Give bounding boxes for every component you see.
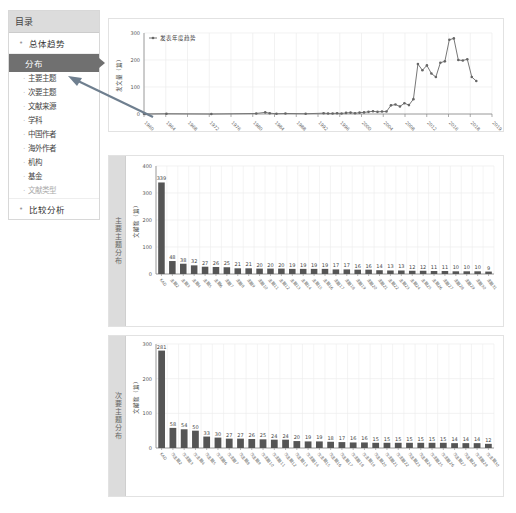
svg-text:19: 19 bbox=[300, 262, 306, 268]
bullet-icon: · bbox=[23, 102, 25, 111]
svg-text:20: 20 bbox=[278, 262, 284, 268]
sidebar-subitem[interactable]: ·次要主题 bbox=[9, 86, 99, 100]
sidebar-item-overall-trend[interactable]: • 总体趋势 bbox=[9, 33, 99, 54]
svg-text:0: 0 bbox=[137, 111, 140, 117]
svg-text:16: 16 bbox=[355, 263, 361, 269]
svg-text:10: 10 bbox=[474, 264, 480, 270]
sidebar-subitem[interactable]: ·机构 bbox=[9, 156, 99, 170]
svg-text:20: 20 bbox=[267, 262, 273, 268]
svg-text:2000: 2000 bbox=[361, 120, 373, 131]
svg-text:33: 33 bbox=[204, 430, 210, 436]
svg-text:主题31: 主题31 bbox=[486, 277, 499, 291]
bullet-icon: · bbox=[23, 88, 25, 97]
svg-text:100: 100 bbox=[142, 244, 152, 250]
svg-text:58: 58 bbox=[170, 421, 176, 427]
svg-text:13: 13 bbox=[398, 263, 404, 269]
svg-text:文献数（篇）: 文献数（篇） bbox=[132, 378, 140, 414]
sidebar-subitem-label: 中国作者 bbox=[28, 130, 56, 139]
primary-topic-panel: 主要主题分布 0100200300400339KAD48主题238主题332主题… bbox=[108, 155, 504, 327]
svg-text:11: 11 bbox=[442, 264, 448, 270]
annual-trend-line-chart: 0100200300196019641968197219761980198419… bbox=[109, 19, 503, 131]
sidebar-subitem[interactable]: ·主要主题 bbox=[9, 72, 99, 86]
svg-text:主题11: 主题11 bbox=[268, 277, 281, 291]
svg-text:15: 15 bbox=[429, 436, 435, 442]
svg-text:主题27: 主题27 bbox=[442, 277, 455, 291]
svg-text:14: 14 bbox=[463, 436, 469, 442]
svg-text:主题25: 主题25 bbox=[420, 277, 433, 291]
svg-text:400: 400 bbox=[142, 163, 152, 169]
svg-text:15: 15 bbox=[373, 436, 379, 442]
sidebar-subitem[interactable]: ·学科 bbox=[9, 114, 99, 128]
svg-text:38: 38 bbox=[180, 257, 186, 263]
svg-text:25: 25 bbox=[260, 432, 266, 438]
sidebar-subitem[interactable]: ·中国作者 bbox=[9, 128, 99, 142]
svg-text:200: 200 bbox=[142, 217, 152, 223]
svg-text:主题21: 主题21 bbox=[377, 277, 390, 291]
svg-text:KAD: KAD bbox=[159, 451, 168, 461]
svg-text:主题16: 主题16 bbox=[322, 277, 335, 291]
svg-text:2018: 2018 bbox=[470, 120, 482, 131]
sidebar-subitem[interactable]: ·海外作者 bbox=[9, 142, 99, 156]
svg-text:主题8: 主题8 bbox=[235, 277, 247, 289]
svg-text:19: 19 bbox=[311, 262, 317, 268]
svg-text:20: 20 bbox=[294, 434, 300, 440]
svg-text:0: 0 bbox=[149, 445, 152, 451]
svg-text:17: 17 bbox=[333, 262, 339, 268]
svg-text:17: 17 bbox=[344, 262, 350, 268]
svg-text:2008: 2008 bbox=[404, 120, 416, 131]
svg-text:300: 300 bbox=[142, 341, 152, 347]
svg-text:200: 200 bbox=[130, 57, 140, 63]
svg-text:主题12: 主题12 bbox=[279, 277, 292, 291]
svg-text:1964: 1964 bbox=[165, 120, 177, 131]
sidebar-subitem-label: 海外作者 bbox=[28, 144, 56, 153]
svg-text:主题5: 主题5 bbox=[202, 277, 214, 289]
sidebar-subitem[interactable]: ·文献类型 bbox=[9, 184, 99, 198]
svg-text:主题15: 主题15 bbox=[311, 277, 324, 291]
svg-text:15: 15 bbox=[418, 436, 424, 442]
secondary-topic-bar-chart: 0100200300281KAD58次主题254次主题350次主题433次主题5… bbox=[109, 336, 503, 496]
bullet-icon: · bbox=[23, 116, 25, 125]
svg-text:19: 19 bbox=[289, 262, 295, 268]
svg-text:281: 281 bbox=[157, 344, 167, 350]
svg-text:主题3: 主题3 bbox=[180, 277, 192, 289]
sidebar-item-comparison[interactable]: • 比较分析 bbox=[9, 198, 99, 219]
svg-text:50: 50 bbox=[192, 424, 198, 430]
svg-text:KAD: KAD bbox=[159, 277, 168, 287]
svg-text:19: 19 bbox=[316, 434, 322, 440]
svg-text:1968: 1968 bbox=[187, 120, 199, 131]
svg-text:主题29: 主题29 bbox=[464, 277, 477, 291]
svg-text:主题10: 主题10 bbox=[257, 277, 270, 291]
svg-text:1980: 1980 bbox=[252, 120, 264, 131]
svg-text:17: 17 bbox=[339, 435, 345, 441]
sidebar-item-label: 总体趋势 bbox=[29, 37, 65, 49]
sidebar-item-distribution[interactable]: 分布 bbox=[9, 54, 99, 72]
svg-text:300: 300 bbox=[142, 190, 152, 196]
svg-text:文献数（篇）: 文献数（篇） bbox=[132, 202, 140, 238]
svg-text:100: 100 bbox=[130, 84, 140, 90]
svg-text:1960: 1960 bbox=[143, 120, 155, 131]
bullet-icon: · bbox=[23, 186, 25, 195]
svg-text:10: 10 bbox=[464, 264, 470, 270]
svg-text:1976: 1976 bbox=[230, 120, 242, 131]
svg-text:26: 26 bbox=[213, 260, 219, 266]
svg-text:27: 27 bbox=[202, 260, 208, 266]
svg-text:2016: 2016 bbox=[448, 120, 460, 131]
svg-text:48: 48 bbox=[169, 254, 175, 260]
svg-text:2004: 2004 bbox=[383, 120, 395, 131]
svg-text:14: 14 bbox=[451, 436, 457, 442]
sidebar-subitem[interactable]: ·基金 bbox=[9, 170, 99, 184]
svg-text:15: 15 bbox=[384, 436, 390, 442]
svg-text:16: 16 bbox=[350, 435, 356, 441]
svg-text:15: 15 bbox=[406, 436, 412, 442]
svg-text:主题9: 主题9 bbox=[246, 277, 258, 289]
svg-text:14: 14 bbox=[474, 436, 480, 442]
svg-text:主题17: 主题17 bbox=[333, 277, 346, 291]
svg-text:16: 16 bbox=[365, 263, 371, 269]
svg-text:发文量（篇）: 发文量（篇） bbox=[115, 56, 123, 92]
svg-text:主题28: 主题28 bbox=[453, 277, 466, 291]
svg-text:主题2: 主题2 bbox=[170, 277, 182, 289]
svg-text:1996: 1996 bbox=[339, 120, 351, 131]
bullet-icon: · bbox=[23, 158, 25, 167]
trend-chart-panel: 0100200300196019641968197219761980198419… bbox=[108, 18, 504, 132]
sidebar-subitem[interactable]: ·文献来源 bbox=[9, 100, 99, 114]
